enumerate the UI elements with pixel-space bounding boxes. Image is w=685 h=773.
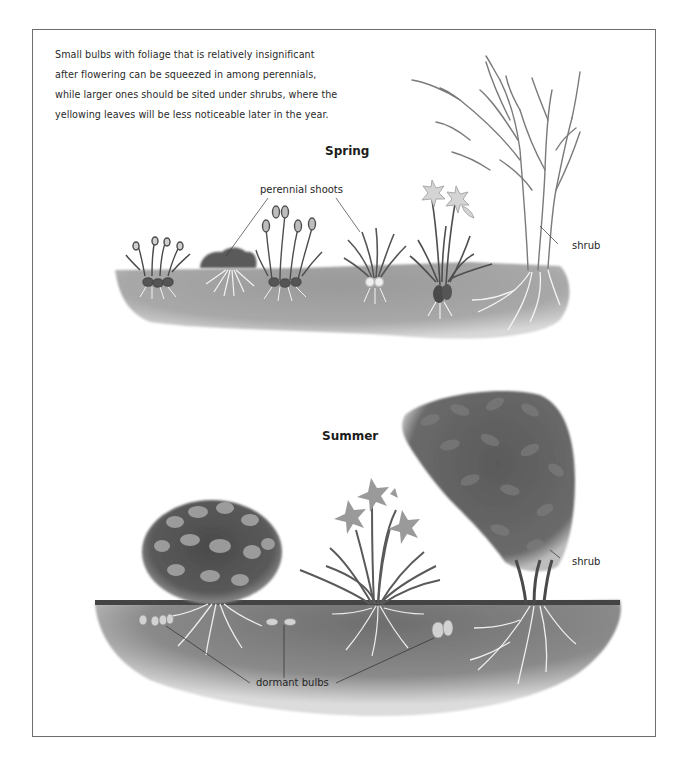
dormant-bulbs-label: dormant bulbs [256,677,329,688]
garden-illustration [0,0,685,773]
summer-shrub-label: shrub [572,556,600,567]
summer-heading: Summer [322,429,378,443]
summer-soil-line [95,600,620,605]
spring-shrub-label: shrub [572,240,600,251]
spring-heading: Spring [325,144,369,158]
leafy-shrub-icon [402,391,575,604]
round-shrub-icon [142,500,282,604]
spring-scene [115,56,580,339]
day-lily-icon [300,478,440,604]
perennial-shoots-label: perennial shoots [260,184,343,195]
